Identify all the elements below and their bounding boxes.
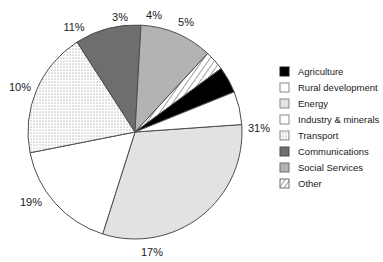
pie-label-industry-minerals: 17%	[141, 246, 163, 258]
legend-swatch-rural-development	[280, 83, 289, 92]
legend-label-energy: Energy	[298, 98, 328, 109]
pie-label-transport: 19%	[20, 196, 42, 208]
pie-label-rural-development: 5%	[178, 16, 194, 28]
legend-item-industry-minerals[interactable]: Industry & minerals	[280, 114, 380, 125]
legend-item-other[interactable]: Other	[280, 178, 322, 189]
legend-swatch-industry-minerals	[280, 115, 289, 124]
legend-label-industry-minerals: Industry & minerals	[298, 114, 380, 125]
legend-label-communications: Communications	[298, 146, 369, 157]
legend-swatch-social-services	[280, 163, 289, 172]
legend-item-agriculture[interactable]: Agriculture	[280, 66, 343, 77]
legend-swatch-other	[280, 179, 289, 188]
pie-label-energy: 31%	[248, 122, 270, 134]
legend-label-other: Other	[298, 178, 322, 189]
pie-chart-svg: 3% 4% 5% 31% 17% 19% 10% 11% Agriculture…	[0, 0, 383, 262]
legend-swatch-communications	[280, 147, 289, 156]
legend-item-rural-development[interactable]: Rural development	[280, 82, 378, 93]
pie-label-agriculture: 4%	[146, 9, 162, 21]
legend-label-transport: Transport	[298, 130, 339, 141]
legend-label-agriculture: Agriculture	[298, 66, 343, 77]
pie-label-communications: 10%	[9, 81, 31, 93]
legend-swatch-agriculture	[280, 67, 289, 76]
legend-swatch-energy	[280, 99, 289, 108]
legend-item-social-services[interactable]: Social Services	[280, 162, 363, 173]
pie-label-social-services: 11%	[63, 21, 84, 33]
pie-chart-figure: 3% 4% 5% 31% 17% 19% 10% 11% Agriculture…	[0, 0, 383, 262]
legend: Agriculture Rural development Energy Ind…	[280, 66, 380, 189]
legend-item-energy[interactable]: Energy	[280, 98, 328, 109]
legend-label-social-services: Social Services	[298, 162, 363, 173]
legend-label-rural-development: Rural development	[298, 82, 378, 93]
legend-item-communications[interactable]: Communications	[280, 146, 369, 157]
legend-swatch-transport	[280, 131, 289, 140]
legend-item-transport[interactable]: Transport	[280, 130, 339, 141]
pie-label-other: 3%	[112, 11, 128, 23]
